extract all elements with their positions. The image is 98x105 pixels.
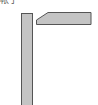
- vertical-post: [21, 13, 33, 105]
- angled-beam: [36, 11, 94, 25]
- diagram-label: 帐子: [0, 0, 18, 5]
